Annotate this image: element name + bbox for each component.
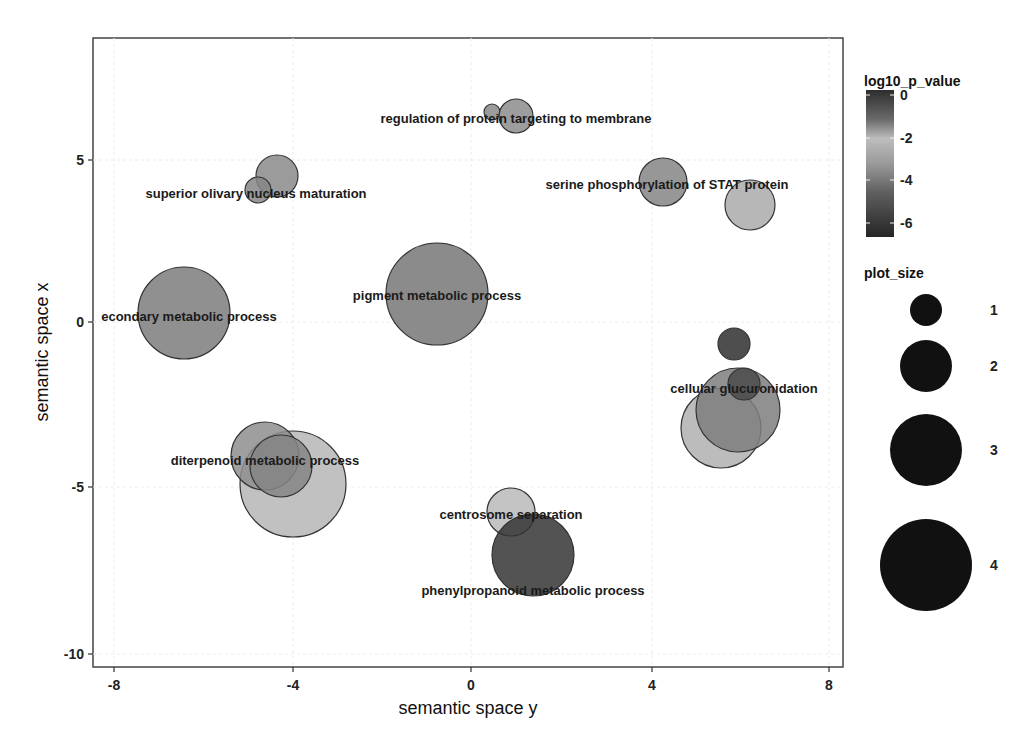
label-centrosome-separation: centrosome separation [439,507,582,522]
size-legend: plot_size 1 2 3 4 [864,265,998,611]
colorbar-tick: -4 [900,172,913,188]
colorbar [866,90,894,237]
y-tick: 5 [76,152,84,168]
x-tick: -8 [108,677,121,693]
bubble-chart: regulation of protein targeting to membr… [0,0,1036,756]
y-axis: 5 0 -5 -10 semantic space x [32,152,84,662]
x-tick: 4 [648,677,656,693]
y-tick: -5 [72,479,85,495]
label-pigment-metabolic: pigment metabolic process [353,288,521,303]
x-tick: 0 [467,677,475,693]
size-legend-label: 3 [990,442,998,458]
label-phenylpropanoid-metabolic: phenylpropanoid metabolic process [421,583,644,598]
color-legend-title: log10_p_value [864,73,961,89]
size-legend-label: 1 [990,302,998,318]
size-legend-circle [880,519,972,611]
size-legend-circle [910,294,942,326]
size-legend-circle [900,340,952,392]
x-axis: -8 -4 0 4 8 semantic space y [108,677,833,718]
colorbar-tick: -6 [900,215,913,231]
label-cellular-glucuronidation: cellular glucuronidation [670,381,817,396]
label-serine-phosphorylation: serine phosphorylation of STAT protein [546,177,789,192]
size-legend-label: 4 [990,557,998,573]
size-legend-circle [890,414,962,486]
label-secondary-metabolic: econdary metabolic process [101,309,277,324]
size-legend-label: 2 [990,358,998,374]
colorbar-tick: 0 [900,87,908,103]
x-tick: -4 [287,677,300,693]
label-diterpenoid-metabolic: diterpenoid metabolic process [171,453,360,468]
plot-panel: regulation of protein targeting to membr… [93,38,843,667]
y-tick: 0 [76,314,84,330]
x-axis-title: semantic space y [398,698,537,718]
size-legend-title: plot_size [864,265,924,281]
x-tick: 8 [825,677,833,693]
label-regulation-protein-targeting: regulation of protein targeting to membr… [381,111,652,126]
y-tick: -10 [64,646,84,662]
bubble [718,328,750,360]
y-axis-title: semantic space x [32,282,52,421]
color-legend: log10_p_value 0 -2 -4 -6 [864,73,961,237]
colorbar-tick: -2 [900,130,913,146]
label-superior-olivary: superior olivary nucleus maturation [145,186,366,201]
